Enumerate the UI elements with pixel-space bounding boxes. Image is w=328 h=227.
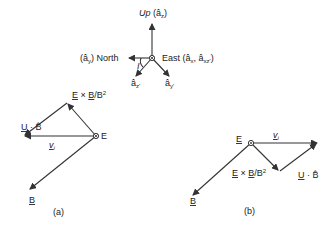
up-label: Up (âz)	[139, 8, 167, 19]
ub-vector-b	[280, 144, 316, 171]
diagram-a: E × B/B2 U · B̂ vi E B (a)	[21, 90, 107, 217]
b-vector-a	[30, 136, 96, 189]
north-label: (ây) North	[80, 53, 119, 64]
vi-label-b: vi	[273, 130, 280, 141]
e-label-a: E	[101, 131, 107, 141]
exb-label-b: E × B/B2	[232, 168, 267, 178]
caption-b: (b)	[244, 206, 255, 216]
coordinate-axes: Up (âz) (ây) North East (âx, âxz') âz' â…	[80, 8, 214, 89]
b-label-b: B	[190, 196, 196, 206]
e-label-b: E	[236, 134, 242, 144]
figure-canvas: Up (âz) (ây) North East (âx, âxz') âz' â…	[0, 0, 328, 227]
b-label-a: B	[29, 195, 35, 205]
vi-label-a: vi	[49, 140, 56, 151]
dot-mark-icon	[250, 142, 252, 144]
east-label: East (âx, âxz')	[162, 53, 214, 64]
ay-prime-label: ây'	[165, 78, 174, 89]
exb-vector-a	[68, 104, 96, 136]
az-prime-label: âz'	[131, 78, 140, 89]
inclination-angle-arc	[140, 58, 143, 67]
angle-label: I	[137, 61, 140, 71]
ub-label-a: U · B̂	[21, 122, 42, 132]
ub-label-b: U · B̂	[298, 170, 319, 180]
diagram-b: E vi E × B/B2 U · B̂ B (b)	[190, 130, 319, 216]
caption-a: (a)	[53, 207, 64, 217]
exb-label-a: E × B/B2	[72, 90, 107, 100]
exb-vector-b	[251, 143, 278, 170]
